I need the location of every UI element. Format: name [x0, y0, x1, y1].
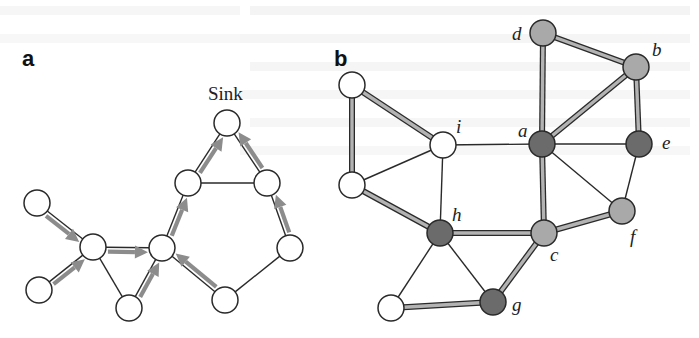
graph-node: [254, 170, 280, 196]
node-label-g: g: [512, 294, 522, 315]
flow-arrow-shaft: [280, 207, 289, 232]
graph-node: [212, 287, 238, 313]
node-b: [623, 54, 649, 80]
graph-node: [80, 234, 106, 260]
node-label-b: b: [652, 39, 662, 60]
flow-arrow-shaft: [172, 210, 182, 236]
graph-node: [149, 235, 175, 261]
graph-edge: [235, 256, 280, 292]
node-label-d: d: [512, 23, 522, 44]
graph-edge: [172, 256, 215, 291]
panel-a: a Sink: [22, 46, 303, 321]
unlabeled-node: [378, 295, 404, 321]
unlabeled-node: [339, 172, 365, 198]
graph-node: [26, 277, 52, 303]
highlighted-edge-fill: [542, 33, 543, 144]
node-i: [430, 132, 456, 158]
highlighted-edge-fill: [542, 67, 636, 144]
node-label-h: h: [452, 204, 462, 225]
node-label-f: f: [630, 226, 638, 247]
panel-b-edges: [352, 33, 639, 308]
node-label-c: c: [550, 244, 559, 265]
node-f: [609, 198, 635, 224]
graph-edge: [47, 211, 83, 239]
panel-a-edges: [46, 132, 289, 297]
sink-node: [214, 110, 240, 136]
node-g: [480, 289, 506, 315]
panel-b-label: b: [334, 46, 347, 71]
graph-node: [175, 170, 201, 196]
flow-arrow-shaft: [186, 262, 217, 287]
graph-edge: [100, 258, 123, 297]
graph-edge: [195, 134, 220, 172]
node-e: [626, 131, 652, 157]
highlighted-edge-fill: [352, 185, 440, 233]
panel-a-nodes: [24, 110, 303, 321]
panel-a-label: a: [22, 46, 35, 71]
node-c: [531, 220, 557, 246]
graph-edge: [106, 247, 149, 248]
graph-edge: [443, 144, 542, 145]
graph-node: [116, 295, 142, 321]
node-label-e: e: [662, 132, 670, 153]
node-label-a: a: [518, 120, 528, 141]
figure-canvas: a Sink b ihdbaefcg: [0, 0, 699, 338]
node-label-i: i: [456, 116, 461, 137]
unlabeled-node: [339, 72, 365, 98]
node-h: [427, 220, 453, 246]
node-d: [530, 20, 556, 46]
graph-node: [277, 235, 303, 261]
graph-node: [24, 190, 50, 216]
sink-label: Sink: [208, 83, 243, 104]
node-a: [529, 131, 555, 157]
